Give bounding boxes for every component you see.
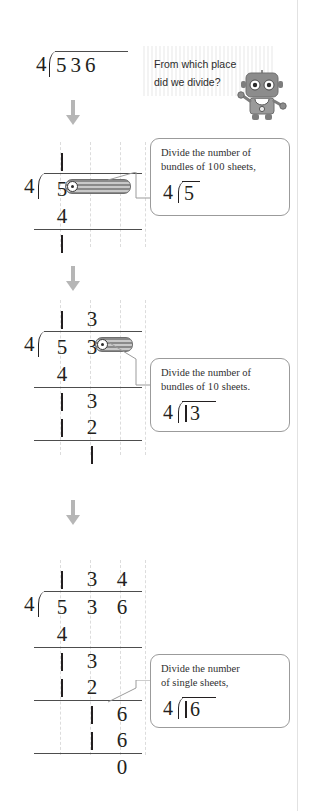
step-3-quotient-tens: 3 — [77, 568, 107, 590]
step-2-divisor: 4 — [24, 334, 35, 355]
digit-one-stroke — [61, 419, 63, 437]
mini-dividend: 5 — [184, 183, 195, 203]
step-3-dividend-ones: 6 — [107, 596, 137, 618]
bar-knob-icon — [97, 339, 108, 350]
step-2-vinculum — [44, 331, 142, 332]
mini-dividend: 3 — [184, 403, 201, 423]
step-3-subtract3-tens — [77, 729, 107, 751]
step-3-division: 4 3 4 5 3 6 4 3 2 6 — [22, 560, 147, 755]
step-3-subtract2-tens: 2 — [77, 676, 107, 698]
step-2-quotient-tens: 3 — [77, 308, 107, 330]
step-2-quotient-hundreds — [47, 308, 77, 330]
step-1-quotient-hundreds — [47, 150, 77, 172]
step-3-callout-connector — [108, 680, 150, 710]
step-1-mini-division: 4 5 — [161, 178, 280, 208]
digit-one-stroke — [61, 571, 63, 589]
digit-one-stroke — [61, 679, 63, 697]
step-2-subtract-hundreds: 4 — [47, 363, 77, 385]
mini-divisor: 4 — [163, 698, 173, 718]
step-1-callout: Divide the number of bundles of 100 shee… — [150, 138, 290, 216]
step-2-subtract2-tens: 2 — [77, 416, 107, 438]
step-3-callout-line-2: of single sheets, — [161, 676, 280, 690]
step-3-bringdown-tens: 3 — [77, 650, 107, 672]
step-2-subtract2-hundreds — [47, 416, 77, 438]
callout-text-pre: bundles of — [161, 381, 208, 392]
step-3-dividend-hundreds: 5 — [47, 596, 77, 618]
step-1-result-hundreds — [47, 232, 77, 254]
step-3-callout: Divide the number of single sheets, 4 6 — [150, 654, 290, 728]
digit-one-stroke — [185, 405, 187, 422]
step-1-callout-connector — [108, 172, 150, 200]
step-3-mini-division: 4 6 — [161, 694, 280, 724]
digit-one-stroke — [61, 235, 63, 253]
arrow-head — [66, 281, 80, 291]
callout-number: 10 — [208, 381, 220, 392]
step-3-quotient-ones: 4 — [107, 568, 137, 590]
step-2-mini-division: 4 3 — [161, 398, 280, 428]
step-2-bringdown-hundreds — [47, 390, 77, 412]
arrow-shaft — [71, 266, 75, 282]
mini-divisor: 4 — [163, 182, 173, 202]
step-3-subtract2-hundreds — [47, 676, 77, 698]
arrow-head — [66, 115, 80, 125]
step-3-dividend-tens: 3 — [77, 596, 107, 618]
arrow-head — [66, 515, 80, 525]
mini-dividend: 6 — [184, 699, 201, 719]
header-division-expression: 4 536 — [36, 46, 146, 80]
step-3-subtract3-ones: 6 — [107, 729, 137, 751]
digit-one-stroke — [61, 153, 63, 171]
digit-one-stroke — [61, 393, 63, 411]
column-guide — [145, 560, 146, 755]
arrow-step2 — [66, 266, 80, 292]
digit-one-stroke — [91, 732, 93, 750]
mini-divisor: 4 — [163, 402, 173, 422]
digit-one-stroke — [61, 311, 63, 329]
step-2-subtotal-rule-2 — [34, 440, 142, 441]
callout-text-post: sheets, — [225, 161, 256, 172]
arrow-step1 — [66, 100, 80, 126]
callout-text-pre: bundles of — [161, 161, 208, 172]
step-2-callout-line-1: Divide the number of — [161, 366, 280, 380]
digit-one-stroke — [91, 446, 93, 464]
step-3-subtract-hundreds: 4 — [47, 623, 77, 645]
column-guide — [90, 142, 91, 247]
page-margin-rule — [297, 0, 298, 811]
step-1-callout-line-1: Divide the number of — [161, 146, 280, 160]
step-3-vinculum — [44, 591, 142, 592]
step-2-callout: Divide the number of bundles of 10 sheet… — [150, 358, 290, 432]
arrow-shaft — [71, 100, 75, 116]
bar-knob-icon — [67, 181, 78, 192]
digit-one-stroke — [61, 653, 63, 671]
step-2-dividend-hundreds: 5 — [47, 336, 77, 358]
step-3-divisor: 4 — [24, 594, 35, 615]
robot-mascot-icon — [231, 64, 293, 122]
header-divisor: 4 — [36, 54, 47, 75]
callout-number: 100 — [208, 161, 225, 172]
step-3-quotient-hundreds — [47, 568, 77, 590]
digit-one-stroke — [185, 701, 187, 718]
step-3-bringdown2-tens — [77, 703, 107, 725]
callout-text-post: sheets. — [219, 381, 250, 392]
step-3-callout-line-1: Divide the number — [161, 662, 280, 676]
step-1-callout-line-2: bundles of 100 sheets, — [161, 160, 280, 174]
step-2-callout-connector — [108, 337, 150, 387]
step-2-bringdown-tens: 3 — [77, 390, 107, 412]
header-dividend: 536 — [56, 54, 126, 76]
step-2-callout-line-2: bundles of 10 sheets. — [161, 380, 280, 394]
step-2-result-tens — [77, 443, 107, 465]
arrow-step3 — [66, 500, 80, 526]
step-1-divisor: 4 — [24, 176, 35, 197]
step-1-subtract-hundreds: 4 — [47, 205, 77, 227]
digit-one-stroke — [91, 706, 93, 724]
arrow-shaft — [71, 500, 75, 516]
step-3-final-remainder: 0 — [107, 756, 137, 778]
worksheet-page: 4 536 From which place did we divide? — [0, 0, 309, 811]
step-3-bringdown-hundreds — [47, 650, 77, 672]
step-1-subtotal-rule — [34, 229, 142, 230]
